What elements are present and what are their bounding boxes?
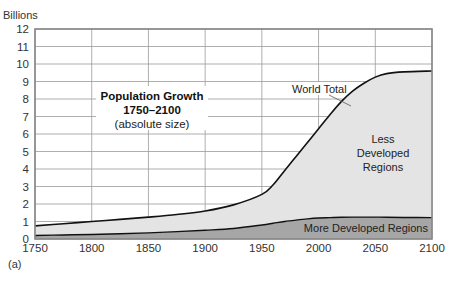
svg-text:9: 9	[23, 76, 29, 88]
more-developed-label: More Developed Regions	[304, 222, 429, 234]
chart-subtitle-size: (absolute size)	[115, 118, 190, 130]
y-axis-label: Billions	[3, 9, 38, 21]
chart-subtitle: 1750–2100	[123, 104, 181, 116]
svg-text:10: 10	[16, 58, 29, 70]
svg-text:4: 4	[23, 163, 30, 175]
svg-text:2050: 2050	[362, 242, 388, 254]
svg-text:7: 7	[23, 111, 29, 123]
svg-text:3: 3	[23, 181, 29, 193]
less-developed-label-1: Less	[371, 133, 395, 145]
panel-label: (a)	[8, 258, 21, 270]
chart-title: Population Growth	[101, 90, 204, 102]
svg-text:1900: 1900	[192, 242, 218, 254]
svg-text:1800: 1800	[79, 242, 105, 254]
svg-text:1: 1	[23, 216, 29, 228]
svg-text:1950: 1950	[249, 242, 275, 254]
svg-text:6: 6	[23, 128, 29, 140]
svg-text:5: 5	[23, 146, 29, 158]
svg-text:1750: 1750	[22, 242, 48, 254]
y-axis-ticks: 0123456789101112	[16, 23, 29, 245]
svg-text:1850: 1850	[136, 242, 162, 254]
svg-text:12: 12	[16, 23, 29, 35]
svg-text:2: 2	[23, 198, 29, 210]
less-developed-label-3: Regions	[363, 161, 404, 173]
less-developed-label-2: Developed	[357, 147, 410, 159]
svg-text:2000: 2000	[306, 242, 332, 254]
world-total-label: World Total	[292, 83, 347, 95]
svg-text:11: 11	[17, 41, 29, 53]
population-growth-chart: 0123456789101112 17501800185019001950200…	[0, 0, 461, 285]
svg-text:2100: 2100	[419, 242, 445, 254]
svg-text:8: 8	[23, 93, 29, 105]
x-axis-ticks: 17501800185019001950200020502100	[22, 242, 445, 254]
